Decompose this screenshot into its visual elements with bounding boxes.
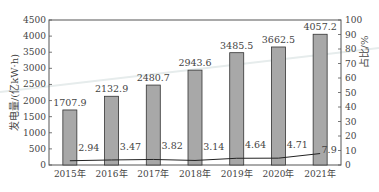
left-tick-label: 2000: [23, 96, 46, 106]
left-tick-label: 500: [29, 144, 46, 154]
line-value-label: 3.47: [120, 141, 141, 152]
x-tick-label: 2018年: [179, 168, 211, 179]
line-value-label: 7.9: [322, 144, 337, 155]
right-tick-label: 30: [345, 117, 357, 127]
right-tick-label: 100: [345, 15, 362, 25]
bar: [230, 53, 244, 165]
plot-area: 0500100015002000250030003500400045000102…: [8, 15, 370, 179]
bar-value-label: 1707.9: [53, 97, 86, 108]
x-tick-label: 2017年: [137, 168, 169, 179]
bar: [63, 110, 77, 165]
bar-value-label: 4057.2: [304, 21, 337, 32]
left-tick-label: 0: [40, 160, 46, 170]
right-tick-label: 50: [345, 88, 357, 98]
line-value-label: 4.64: [245, 139, 266, 150]
left-tick-label: 2500: [23, 79, 46, 89]
x-tick-label: 2019年: [221, 168, 253, 179]
chart: 0500100015002000250030003500400045000102…: [0, 0, 379, 192]
bar-value-label: 2943.6: [178, 57, 211, 68]
left-tick-label: 3500: [23, 47, 46, 57]
right-tick-label: 80: [345, 44, 357, 54]
x-tick-label: 2016年: [96, 168, 128, 179]
left-tick-label: 4500: [23, 15, 46, 25]
line-value-label: 2.94: [78, 142, 99, 153]
bar: [188, 70, 202, 165]
right-tick-label: 40: [345, 102, 357, 112]
left-axis-title: 发电量/(亿kW·h): [8, 54, 20, 131]
bar: [146, 85, 160, 165]
bar: [271, 47, 285, 165]
left-tick-label: 1500: [23, 112, 46, 122]
bar-value-label: 2480.7: [137, 72, 170, 83]
right-axis-title: 占比/%: [358, 36, 370, 69]
bar: [105, 96, 119, 165]
left-tick-label: 3000: [23, 63, 46, 73]
x-tick-label: 2020年: [262, 168, 294, 179]
left-tick-label: 4000: [23, 31, 46, 41]
bar-value-label: 3485.5: [220, 40, 253, 51]
right-tick-label: 10: [345, 146, 357, 156]
right-tick-label: 70: [345, 59, 357, 69]
left-tick-label: 1000: [23, 128, 46, 138]
line-value-label: 3.14: [203, 141, 224, 152]
bar-value-label: 2132.9: [95, 83, 128, 94]
line-value-label: 3.82: [162, 140, 183, 151]
right-tick-label: 20: [345, 131, 357, 141]
right-tick-label: 0: [345, 160, 351, 170]
x-tick-label: 2015年: [54, 168, 86, 179]
bar-value-label: 3662.5: [262, 34, 295, 45]
right-tick-label: 90: [345, 30, 357, 40]
right-tick-label: 60: [345, 73, 357, 83]
line-value-label: 4.71: [287, 139, 308, 150]
x-tick-label: 2021年: [304, 168, 336, 179]
